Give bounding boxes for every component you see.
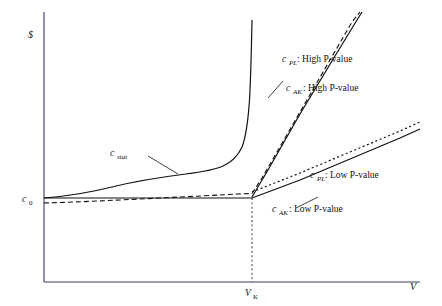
y-tick-c0-label: c [22,194,27,204]
series-c-stat [44,20,252,198]
y-axis-label: $ [28,29,33,40]
annotation-leaders [148,81,318,208]
annotation-cpl-low-sub: PL [316,175,325,183]
series-c-pl-high [252,12,360,194]
annotation-cpl-high: c PL : High P-value [282,54,352,67]
annotation-cak-high: c AK : High P-value [286,83,358,96]
chart-figure: $ V c 0 V K c stat c PL : High P-value c… [0,0,442,306]
annotation-cpl-high-label: c [282,54,287,64]
y-tick-c0: c 0 [22,194,33,207]
annotation-c-stat-label: c [110,148,115,158]
series-c-ak-low [252,129,420,198]
annotation-cak-low-label: c [272,204,277,214]
series-c-pl-low [252,122,420,192]
annotation-cak-high-sub: AK [292,88,302,96]
y-tick-c0-sub: 0 [29,199,33,207]
annotation-cak-low: c AK : Low P-value [272,204,343,217]
annotation-cpl-high-sub: PL [288,59,297,67]
c-stat-leader [148,156,178,174]
annotation-cak-low-suffix: : Low P-value [289,204,343,214]
annotation-c-stat-sub: stat [117,153,128,161]
chart-axes [44,12,420,282]
cak-high-leader [268,81,283,98]
x-tick-vk: V K [245,288,258,301]
annotation-cpl-low-suffix: : Low P-value [325,170,379,180]
x-tick-vk-sub: K [253,293,258,301]
annotation-cpl-low-label: c [310,170,315,180]
annotation-cak-high-label: c [286,83,291,93]
x-axis-label: V [410,281,418,292]
annotation-cpl-high-suffix: : High P-value [297,54,352,64]
x-tick-vk-label: V [245,288,252,298]
annotation-c-stat: c stat [110,148,128,161]
annotation-cak-high-suffix: : High P-value [303,83,358,93]
annotation-cak-low-sub: AK [278,209,288,217]
chart-svg: $ V c 0 V K c stat c PL : High P-value c… [0,0,442,306]
